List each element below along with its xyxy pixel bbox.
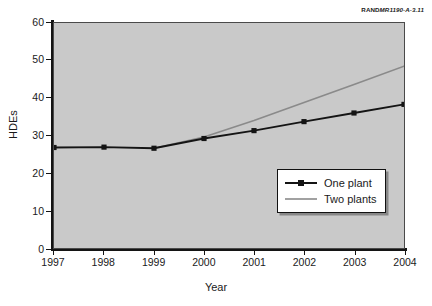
legend-swatch-two-plants <box>284 193 318 205</box>
y-axis-tick <box>46 97 52 98</box>
x-axis-tick-label: 1999 <box>127 257 181 268</box>
chart-legend: One plantTwo plants <box>277 169 386 213</box>
x-axis-tick <box>405 249 406 255</box>
y-axis-tick-label: 60 <box>4 17 44 28</box>
y-axis-tick-label: 10 <box>4 206 44 217</box>
x-axis-tick <box>355 249 356 255</box>
rand-logo-text: RAND <box>361 6 379 13</box>
data-point-marker <box>301 119 306 124</box>
plot-area <box>53 22 405 249</box>
x-axis-tick-label: 1997 <box>26 257 80 268</box>
y-axis-tick-label: 0 <box>4 244 44 255</box>
y-axis-tick-label: 30 <box>4 130 44 141</box>
x-axis-tick <box>254 249 255 255</box>
legend-entry: One plant <box>284 175 377 191</box>
data-point-marker <box>54 145 57 150</box>
legend-swatch-one-plant <box>284 177 318 189</box>
x-axis-tick-label: 2001 <box>227 257 281 268</box>
y-axis-tick-label: 50 <box>4 54 44 65</box>
x-axis-tick-label: 1998 <box>76 257 130 268</box>
x-axis-tick <box>204 249 205 255</box>
y-axis-tick <box>46 173 52 174</box>
series-lines <box>54 23 404 248</box>
data-point-marker <box>351 110 356 115</box>
legend-label: One plant <box>324 178 372 189</box>
data-point-marker <box>201 136 206 141</box>
rand-source-credit: RANDMR1190-A-3.11 <box>361 7 424 13</box>
rand-document-id: MR1190-A-3.11 <box>380 6 424 13</box>
x-axis-tick <box>103 249 104 255</box>
x-axis-tick <box>53 249 54 255</box>
y-axis-tick-label: 20 <box>4 168 44 179</box>
legend-label: Two plants <box>324 194 377 205</box>
y-axis-tick <box>46 22 52 23</box>
y-axis-tick <box>46 211 52 212</box>
y-axis-tick <box>46 135 52 136</box>
series-line-two-plants <box>154 66 404 148</box>
y-axis-tick-label: 40 <box>4 92 44 103</box>
chart-figure: RANDMR1190-A-3.11 HDEs Year 010203040506… <box>0 0 432 306</box>
x-axis-tick-label: 2004 <box>378 257 432 268</box>
y-axis-tick <box>46 59 52 60</box>
x-axis-title: Year <box>0 282 432 293</box>
x-axis-tick-label: 2002 <box>277 257 331 268</box>
data-point-marker <box>251 128 256 133</box>
data-point-marker <box>151 146 156 151</box>
x-axis-tick-label: 2000 <box>177 257 231 268</box>
data-point-marker <box>401 102 404 107</box>
legend-entry: Two plants <box>284 191 377 207</box>
y-axis-title: HDEs <box>8 95 19 155</box>
x-axis-tick <box>304 249 305 255</box>
data-point-marker <box>101 145 106 150</box>
y-axis-tick <box>46 249 52 250</box>
x-axis-tick-label: 2003 <box>328 257 382 268</box>
x-axis-tick <box>154 249 155 255</box>
